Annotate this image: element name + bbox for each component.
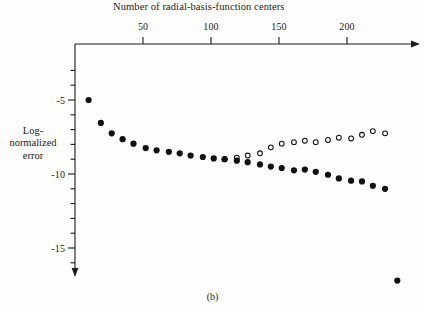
x-axis-arrowhead (411, 41, 420, 48)
data-point-filled (177, 150, 183, 156)
data-point-filled (348, 178, 354, 184)
x-tick-label: 100 (203, 21, 218, 32)
data-point-open (292, 140, 297, 145)
data-point-filled (120, 136, 126, 142)
figure-panel: Number of radial-basis-function centers … (0, 0, 425, 311)
series-filled-circles (86, 97, 401, 284)
y-tick-label: -15 (33, 243, 65, 254)
series-open-circles (222, 129, 387, 162)
data-point-filled (268, 164, 274, 170)
data-point-filled (336, 175, 342, 181)
data-point-filled (188, 152, 194, 158)
data-point-filled (302, 166, 308, 172)
data-point-open (258, 151, 263, 156)
data-point-filled (291, 167, 297, 173)
data-point-open (268, 145, 273, 150)
data-point-filled (143, 145, 149, 151)
data-point-open (245, 153, 250, 158)
data-point-filled (359, 178, 365, 184)
data-point-open (370, 129, 375, 134)
y-axis-title: Log- normalized error (2, 125, 64, 162)
y-tick-label: -5 (33, 95, 65, 106)
data-point-open (349, 136, 354, 141)
data-point-open (279, 141, 284, 146)
data-point-filled (382, 186, 388, 192)
x-tick-label: 50 (138, 21, 148, 32)
data-point-filled (200, 154, 206, 160)
data-point-filled (109, 130, 115, 136)
x-tick-label: 150 (271, 21, 286, 32)
data-point-filled (245, 159, 251, 165)
y-axis-title-line-2: normalized (2, 137, 64, 149)
data-point-open (302, 138, 307, 143)
data-point-open (336, 135, 341, 140)
data-point-filled (257, 161, 263, 167)
y-axis-title-line-1: Log- (2, 125, 64, 137)
data-point-open (313, 140, 318, 145)
data-point-filled (166, 149, 172, 155)
y-axis-title-line-3: error (2, 150, 64, 162)
data-point-open (360, 132, 365, 137)
data-point-filled (130, 141, 136, 147)
data-point-filled (313, 169, 319, 175)
data-point-filled (279, 165, 285, 171)
data-point-filled (370, 183, 376, 189)
data-point-filled (394, 277, 400, 283)
data-point-filled (86, 97, 92, 103)
y-tick-label: -10 (33, 169, 65, 180)
data-point-filled (154, 147, 160, 153)
y-axis-arrowhead (72, 268, 79, 277)
data-point-filled (211, 155, 217, 161)
data-point-open (326, 138, 331, 143)
x-axis-title: Number of radial-basis-function centers (113, 1, 285, 12)
data-point-filled (98, 120, 104, 126)
figure-caption: (b) (0, 291, 425, 302)
x-tick-label: 200 (339, 21, 354, 32)
data-point-filled (325, 172, 331, 178)
data-point-open (383, 131, 388, 136)
